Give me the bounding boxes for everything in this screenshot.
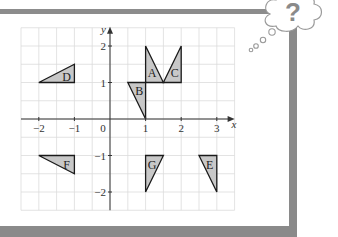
triangle-label: A (148, 66, 157, 80)
x-tick-label: −1 (69, 122, 81, 134)
triangle-label: E (206, 158, 213, 172)
x-tick-label: 2 (178, 122, 184, 134)
triangle-label: F (63, 158, 70, 172)
question-mark-icon: ? (285, 0, 301, 27)
y-tick-label: 1 (101, 77, 107, 89)
diagram-canvas: ? ABCDEFG xy0−2−112321−1−2 (0, 0, 338, 237)
triangle-label: G (148, 158, 157, 172)
triangle-label: D (62, 70, 71, 84)
x-tick-label: 3 (214, 122, 220, 134)
thought-bubble-icon: ? (249, 0, 321, 52)
y-axis-label: y (100, 23, 106, 35)
triangle-label: B (135, 84, 143, 98)
worksheet-panel: ? ABCDEFG xy0−2−112321−1−2 (0, 0, 338, 237)
y-tick-label: 2 (101, 40, 107, 52)
x-axis-label: x (231, 118, 237, 130)
x-tick-label: 1 (143, 122, 149, 134)
y-tick-label: −1 (94, 150, 106, 162)
triangle-label: C (171, 66, 179, 80)
axes: xy0−2−112321−1−2 (21, 23, 237, 211)
x-tick-label: −2 (33, 122, 45, 134)
origin-label: 0 (100, 122, 106, 134)
y-tick-label: −2 (94, 186, 106, 198)
